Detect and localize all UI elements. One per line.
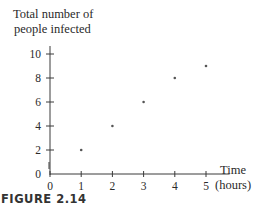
data-point: [205, 65, 208, 68]
x-tick-label: 5: [203, 180, 209, 192]
x-tick-label: 0: [47, 180, 53, 192]
y-tick-label: 6: [35, 96, 41, 108]
y-tick-label: 0: [35, 168, 41, 180]
x-tick-label: 2: [110, 180, 116, 192]
data-point: [142, 101, 145, 104]
x-tick-label: 4: [172, 180, 178, 192]
figure-caption: FIGURE 2.14: [1, 192, 87, 206]
y-tick-label: 4: [35, 120, 41, 132]
data-point: [174, 77, 177, 80]
y-tick-label: 2: [35, 144, 41, 156]
x-tick-label: 3: [141, 180, 147, 192]
data-point: [80, 149, 83, 152]
y-tick-label: 8: [35, 72, 41, 84]
data-point: [111, 125, 114, 128]
x-tick-label: 1: [78, 180, 84, 192]
y-tick-label: 10: [30, 48, 42, 60]
scatter-plot: 0123450246810: [0, 0, 267, 212]
